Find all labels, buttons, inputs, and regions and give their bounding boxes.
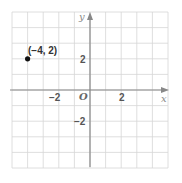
- y-tick-2: 2: [80, 54, 86, 65]
- point-label: (−4, 2): [28, 45, 57, 56]
- axes: [10, 12, 169, 167]
- origin-label: O: [79, 91, 88, 102]
- y-axis-arrow-icon: [87, 12, 93, 20]
- coordinate-plane: [0, 0, 182, 183]
- data-point: [25, 56, 30, 61]
- y-tick-neg2: −2: [74, 116, 85, 127]
- x-tick-2: 2: [119, 92, 125, 103]
- x-tick-neg2: −2: [49, 92, 60, 103]
- x-axis-label: x: [161, 93, 167, 104]
- data-points: [25, 56, 30, 61]
- y-axis-label: y: [79, 11, 85, 22]
